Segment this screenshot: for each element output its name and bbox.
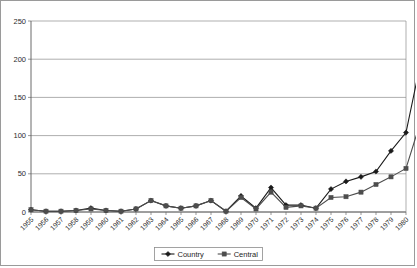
data-point-marker [164,204,168,208]
data-point-marker [343,179,348,184]
x-axis-tick-label: 1972 [274,216,290,232]
y-axis-tick-label: 200 [13,55,26,64]
data-point-marker [314,206,318,210]
data-point-marker [254,207,258,211]
x-axis-tick-label: 1963 [139,216,155,232]
x-axis-tick-label: 1969 [229,216,245,232]
data-point-marker [344,195,348,199]
data-point-marker [404,166,408,170]
x-axis-tick-label: 1978 [364,216,380,232]
x-axis-tick-label: 1971 [259,216,275,232]
data-point-marker [134,207,138,211]
x-axis-tick-label: 1960 [94,216,110,232]
data-point-marker [222,252,226,256]
data-point-marker [389,175,393,179]
x-axis-tick-label: 1962 [124,216,140,232]
data-point-marker [194,204,198,208]
data-point-marker [374,182,378,186]
series-line-country [31,61,416,212]
x-axis-tick-label: 1958 [64,216,80,232]
data-point-marker [329,195,333,199]
series-line-central [31,120,416,211]
x-axis-tick-label: 1975 [319,216,335,232]
x-axis-tick-label: 1976 [334,216,350,232]
line-chart: 0501001502002501955195619571958195919601… [1,1,416,267]
y-axis-tick-label: 150 [13,93,26,102]
data-point-marker [89,207,93,211]
data-point-marker [269,190,273,194]
x-axis-tick-label: 1968 [214,216,230,232]
data-point-marker [44,209,48,213]
legend-label-country: Country [178,250,205,259]
x-axis-tick-label: 1959 [79,216,95,232]
x-axis-tick-label: 1955 [19,216,35,232]
data-point-marker [74,208,78,212]
x-axis-tick-label: 1956 [34,216,50,232]
data-point-marker [149,198,153,202]
data-point-marker [119,209,123,213]
chart-container: 0501001502002501955195619571958195919601… [0,0,415,266]
data-point-marker [59,209,63,213]
data-point-marker [209,198,213,202]
x-axis-tick-label: 1970 [244,216,260,232]
data-point-marker [179,206,183,210]
x-axis-tick-label: 1964 [154,216,170,232]
y-axis-tick-label: 250 [13,17,26,26]
x-axis-tick-label: 1966 [184,216,200,232]
x-axis-tick-label: 1961 [109,216,125,232]
data-point-marker [104,208,108,212]
data-point-marker [284,205,288,209]
x-axis-tick-label: 1977 [349,216,365,232]
x-axis-tick-label: 1967 [199,216,215,232]
y-axis-tick-label: 100 [13,131,26,140]
x-axis-tick-label: 1974 [304,216,320,232]
data-point-marker [359,190,363,194]
y-axis-tick-label: 50 [18,169,26,178]
y-axis-tick-label: 0 [22,208,26,217]
data-point-marker [29,208,33,212]
x-axis-tick-label: 1973 [289,216,305,232]
legend-label-central: Central [234,250,259,259]
data-point-marker [239,195,243,199]
data-point-marker [299,204,303,208]
x-axis-tick-label: 1979 [379,216,395,232]
x-axis-tick-label: 1980 [394,216,410,232]
x-axis-tick-label: 1957 [49,216,65,232]
data-point-marker [358,174,363,179]
data-point-marker [224,209,228,213]
x-axis-tick-label: 1965 [169,216,185,232]
